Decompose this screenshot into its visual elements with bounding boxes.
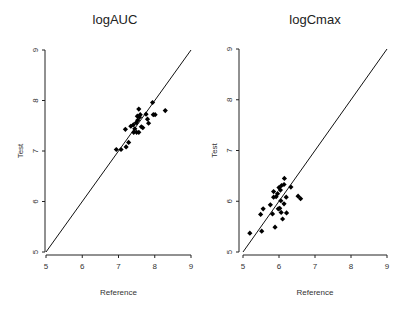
data-point-diamond <box>288 184 293 189</box>
x-tick-label: 9 <box>189 262 194 271</box>
y-tick-label: 9 <box>225 46 234 51</box>
data-point-diamond <box>247 231 252 236</box>
x-tick-label: 6 <box>80 262 85 271</box>
data-point-diamond <box>280 216 285 221</box>
data-point-diamond <box>123 127 128 132</box>
data-point-diamond <box>284 210 289 215</box>
y-tick-label: 6 <box>31 199 40 204</box>
chart-panel-logauc: logAUC5678956789ReferenceTest <box>16 12 194 297</box>
data-point-diamond <box>118 147 123 152</box>
data-point-diamond <box>146 121 151 126</box>
chart-title: logAUC <box>93 12 138 27</box>
chart-title: logCmax <box>289 12 341 27</box>
data-point-diamond <box>278 198 283 203</box>
data-point-diamond <box>259 229 264 234</box>
data-point-diamond <box>261 206 266 211</box>
y-tick-label: 5 <box>31 249 40 254</box>
x-axis-label: Reference <box>297 288 334 297</box>
scatter-figure: logAUC5678956789ReferenceTestlogCmax5678… <box>0 0 407 311</box>
x-axis-label: Reference <box>100 288 137 297</box>
y-tick-label: 7 <box>31 148 40 153</box>
identity-line <box>243 49 387 252</box>
data-point-diamond <box>284 195 289 200</box>
y-tick-label: 6 <box>225 198 234 203</box>
data-point-diamond <box>163 108 168 113</box>
x-tick-label: 5 <box>241 262 246 271</box>
x-tick-label: 7 <box>313 262 318 271</box>
x-tick-label: 5 <box>44 262 49 271</box>
x-tick-label: 6 <box>277 262 282 271</box>
data-point-diamond <box>272 225 277 230</box>
data-point-diamond <box>282 176 287 181</box>
data-point-diamond <box>281 201 286 206</box>
y-axis-label: Test <box>16 143 25 158</box>
x-tick-label: 9 <box>385 262 390 271</box>
x-tick-label: 7 <box>116 262 121 271</box>
identity-line <box>46 50 191 252</box>
x-tick-label: 8 <box>349 262 354 271</box>
x-tick-label: 8 <box>153 262 158 271</box>
y-axis-label: Test <box>210 142 219 157</box>
data-point-diamond <box>279 210 284 215</box>
y-tick-label: 7 <box>225 148 234 153</box>
data-point-diamond <box>258 212 263 217</box>
data-point-diamond <box>124 144 129 149</box>
chart-panel-logcmax: logCmax5678956789ReferenceTest <box>210 12 390 297</box>
y-tick-label: 8 <box>225 97 234 102</box>
data-point-diamond <box>136 106 141 111</box>
data-point-diamond <box>268 202 273 207</box>
data-point-diamond <box>145 117 150 122</box>
data-point-diamond <box>126 140 131 145</box>
y-tick-label: 5 <box>225 249 234 254</box>
y-tick-label: 8 <box>31 98 40 103</box>
y-tick-label: 9 <box>31 47 40 52</box>
data-points <box>114 100 168 152</box>
